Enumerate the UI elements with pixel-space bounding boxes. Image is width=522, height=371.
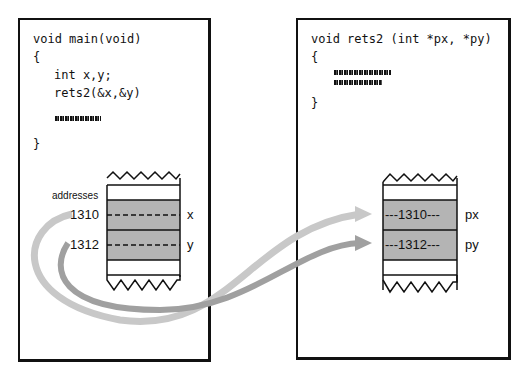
px-cell-value: ---1310--- (385, 207, 440, 222)
memory-diagram (0, 0, 522, 371)
main-memory-block (107, 172, 180, 290)
var-y-label: y (187, 237, 194, 252)
addresses-label: addresses (52, 190, 98, 201)
var-px-label: px (465, 207, 479, 222)
address-1312: 1312 (70, 237, 99, 252)
address-1310: 1310 (70, 207, 99, 222)
py-cell-value: ---1312--- (385, 237, 440, 252)
var-x-label: x (187, 207, 194, 222)
address-1312-arrow (61, 243, 360, 310)
rets2-memory-block (383, 174, 457, 292)
var-py-label: py (465, 237, 479, 252)
